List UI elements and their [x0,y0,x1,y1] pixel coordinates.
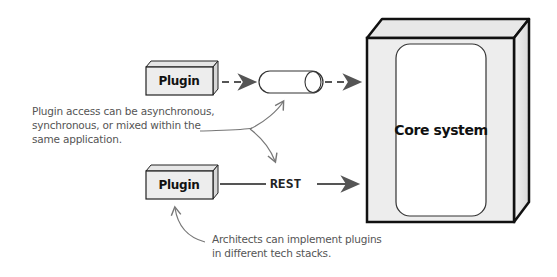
annotation-arrow-bottom [175,208,205,242]
note-tech-line-2: in different tech stacks. [212,246,382,260]
rest-label: REST [270,176,301,191]
note-access-line-2: synchronous, or mixed within the [32,118,214,132]
note-tech-line-1: Architects can implement plugins [212,232,382,246]
note-tech-stacks: Architects can implement plugins in diff… [212,232,382,260]
plugin-label-top: Plugin [149,74,209,88]
note-access-line-1: Plugin access can be asynchronous, [32,104,214,118]
async-connection [222,71,360,93]
note-access-modes: Plugin access can be asynchronous, synch… [32,104,214,146]
core-system-box [367,19,529,222]
plugin-label-bottom: Plugin [149,178,209,192]
core-system-label: Core system [391,122,491,138]
note-access-line-3: same application. [32,132,214,146]
